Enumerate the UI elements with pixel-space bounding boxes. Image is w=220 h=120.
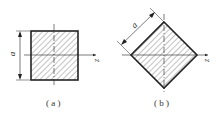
caption-b: ( b ) <box>154 98 169 108</box>
caption-a: ( a ) <box>46 98 61 108</box>
square-section <box>16 24 96 86</box>
dimension-label-a: a <box>7 52 17 57</box>
diagram-canvas <box>0 0 220 120</box>
axis-label-b: z <box>202 59 211 62</box>
axis-label-a: z <box>92 59 101 62</box>
